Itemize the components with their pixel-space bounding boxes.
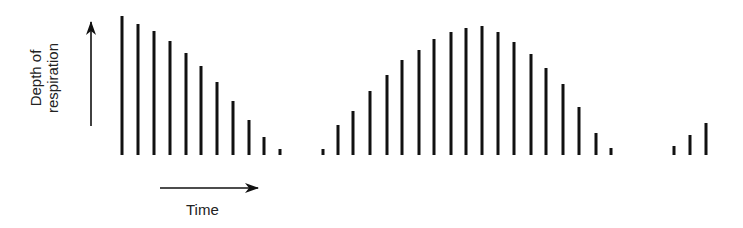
respiration-diagram: Depth of respiration Time [0,0,743,228]
breath-bar [705,123,708,155]
breath-bar [369,91,372,155]
breath-bar [497,32,500,155]
breath-bar [248,120,251,155]
x-axis-label: Time [186,201,219,218]
bar-group [121,16,708,155]
breath-bar [337,125,340,155]
breath-bar [595,133,598,155]
breath-bar [450,32,453,155]
breath-bar [545,68,548,155]
breath-bar [216,82,219,155]
breath-bar [232,101,235,155]
breath-bar [610,148,613,155]
breath-bar [352,111,355,155]
breath-bar [200,66,203,155]
breath-bar [322,149,325,155]
breath-bar [433,39,436,155]
breath-bar [185,53,188,155]
y-axis-label-line2: respiration [44,43,61,113]
breath-bar [562,84,565,155]
breath-bar [386,75,389,155]
y-axis-label: Depth of respiration [14,28,74,128]
breath-bar [481,26,484,155]
breath-bar [401,60,404,155]
breath-bar [279,149,282,155]
respiration-bars [0,0,743,228]
breath-bar [137,24,140,155]
breath-bar [418,50,421,155]
breath-bar [673,146,676,155]
breath-bar [153,31,156,155]
breath-bar [513,42,516,155]
breath-bar [121,16,124,155]
breath-bar [465,28,468,155]
breath-bar [263,137,266,155]
breath-bar [578,107,581,155]
breath-bar [169,41,172,155]
breath-bar [689,135,692,155]
breath-bar [530,54,533,155]
y-axis-label-line1: Depth of [27,43,44,113]
